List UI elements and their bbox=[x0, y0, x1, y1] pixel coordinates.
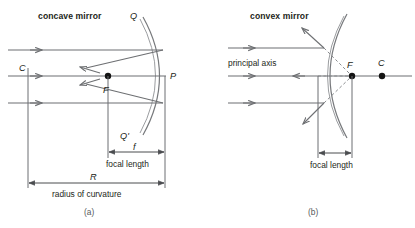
principal-axis-label: principal axis bbox=[228, 58, 276, 68]
convex-focus-label: F bbox=[347, 60, 354, 70]
concave-point-q-prime-label: Q' bbox=[120, 131, 130, 141]
radius-symbol: R bbox=[90, 172, 97, 182]
convex-center-curvature-dot bbox=[379, 73, 385, 79]
convex-focal-length-label: focal length bbox=[310, 160, 353, 170]
convex-reflected-ray-top bbox=[302, 28, 324, 48]
concave-mirror-title: concave mirror bbox=[38, 11, 102, 21]
reflected-arrow-lower bbox=[80, 79, 100, 85]
convex-reflected-ray-bottom bbox=[303, 103, 324, 124]
radius-label: radius of curvature bbox=[52, 189, 122, 199]
concave-center-curvature-label: C bbox=[19, 63, 26, 73]
focal-length-symbol: f bbox=[133, 142, 137, 152]
figure-canvas: concave mirror Q Q' P F C f focal length… bbox=[0, 0, 415, 228]
concave-point-p-label: P bbox=[170, 71, 177, 81]
concave-point-q-label: Q bbox=[130, 11, 137, 21]
optics-mirror-figure: concave mirror Q Q' P F C f focal length… bbox=[0, 0, 415, 228]
reflected-ray-top bbox=[86, 50, 163, 68]
convex-center-curvature-label: C bbox=[378, 58, 385, 68]
reflected-arrow-upper bbox=[80, 67, 100, 73]
reflected-ray-bottom bbox=[86, 84, 163, 103]
focal-length-label: focal length bbox=[106, 159, 149, 169]
panel-b-caption: (b) bbox=[308, 207, 318, 217]
convex-mirror-title: convex mirror bbox=[250, 11, 309, 21]
panel-b-convex-group bbox=[228, 14, 412, 158]
panel-a-caption: (a) bbox=[84, 207, 94, 217]
